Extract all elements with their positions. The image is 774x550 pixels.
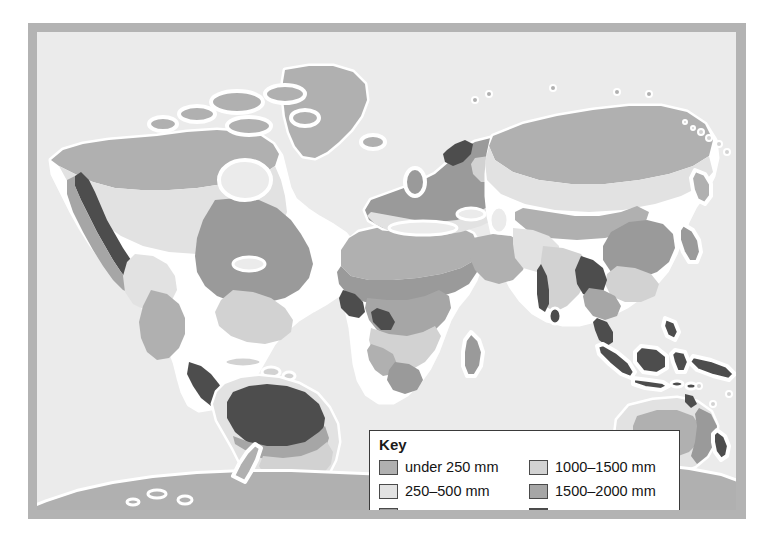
legend-swatch-1500-2000 — [529, 484, 548, 499]
legend-columns: under 250 mm 250–500 mm 500–1000 mm — [379, 455, 679, 510]
legend-label-1500-2000: 1500–2000 mm — [555, 484, 656, 499]
great-lakes — [233, 257, 265, 271]
legend-item-500-1000: 500–1000 mm — [379, 503, 529, 510]
legend-item-over-2000: over 2000 mm — [529, 503, 679, 510]
legend-swatch-under-250 — [379, 460, 398, 475]
legend-label-over-2000: over 2000 mm — [555, 508, 648, 511]
legend-swatch-500-1000 — [379, 508, 398, 511]
landmass-madagascar — [463, 332, 483, 376]
map-plate: Key under 250 mm 250–500 mm — [37, 32, 736, 510]
landmass-philippines — [663, 318, 679, 340]
map-legend: Key under 250 mm 250–500 mm — [369, 430, 680, 510]
legend-swatch-1000-1500 — [529, 460, 548, 475]
legend-label-1000-1500: 1000–1500 mm — [555, 460, 656, 475]
british-isles — [405, 168, 425, 196]
legend-title: Key — [379, 436, 679, 453]
sri-lanka — [549, 308, 561, 324]
legend-item-250-500: 250–500 mm — [379, 479, 529, 503]
iceland — [361, 135, 385, 149]
legend-swatch-250-500 — [379, 484, 398, 499]
legend-swatch-over-2000 — [529, 508, 548, 511]
legend-column-right: 1000–1500 mm 1500–2000 mm over 2000 mm — [529, 455, 679, 510]
caspian-sea — [490, 207, 508, 233]
legend-item-1000-1500: 1000–1500 mm — [529, 455, 679, 479]
landmass-borneo — [635, 346, 667, 374]
legend-item-1500-2000: 1500–2000 mm — [529, 479, 679, 503]
page-root: Key under 250 mm 250–500 mm — [0, 0, 774, 550]
landmass-sulawesi — [671, 350, 689, 372]
map-frame: Key under 250 mm 250–500 mm — [28, 23, 746, 519]
legend-label-500-1000: 500–1000 mm — [405, 508, 498, 511]
legend-label-250-500: 250–500 mm — [405, 484, 490, 499]
legend-label-under-250: under 250 mm — [405, 460, 499, 475]
mediterranean-sea — [389, 221, 457, 235]
hudson-bay — [219, 160, 271, 200]
legend-column-left: under 250 mm 250–500 mm 500–1000 mm — [379, 455, 529, 510]
legend-item-under-250: under 250 mm — [379, 455, 529, 479]
black-sea — [457, 208, 485, 220]
